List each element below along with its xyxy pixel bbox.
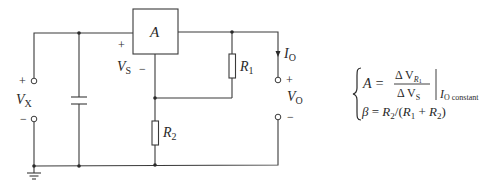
amplifier-label: A [149, 24, 160, 40]
output-terminals: + − VO [275, 73, 303, 124]
eq-denominator: Δ VS [397, 86, 420, 102]
left-brace-icon [353, 68, 361, 120]
eq-beta: β = R2/(R1 + R2) [361, 104, 446, 121]
ground-icon [27, 173, 41, 179]
eq-a-lhs: A = [362, 76, 384, 91]
vo-label: VO [287, 89, 303, 106]
arrow-down-icon [276, 51, 281, 57]
output-minus-label: − [287, 110, 294, 124]
svg-text:R2: R2 [162, 125, 177, 142]
resistor-r1: R1 [229, 54, 254, 78]
resistor-r2: R2 [152, 121, 177, 145]
input-terminals: + − VX [16, 74, 37, 126]
amplifier-block: A [133, 9, 178, 54]
svg-text:R1: R1 [239, 59, 254, 76]
input-plus-label: + [19, 74, 26, 88]
equations: A = Δ VR1 Δ VS IO constant β = R2/(R1 + … [352, 66, 491, 122]
vx-label: VX [16, 92, 33, 109]
output-current: IO [276, 46, 296, 63]
input-minus-label: − [20, 112, 27, 126]
output-plus-label: + [286, 73, 293, 87]
eq-condition: IO constant [439, 87, 479, 102]
vs-minus-label: − [139, 62, 146, 76]
io-label: IO [283, 46, 296, 63]
vs-label: VS [117, 59, 131, 76]
eq-numerator: Δ VR1 [395, 68, 422, 84]
capacitor-icon [71, 97, 87, 104]
vs-plus-label: + [118, 38, 125, 52]
